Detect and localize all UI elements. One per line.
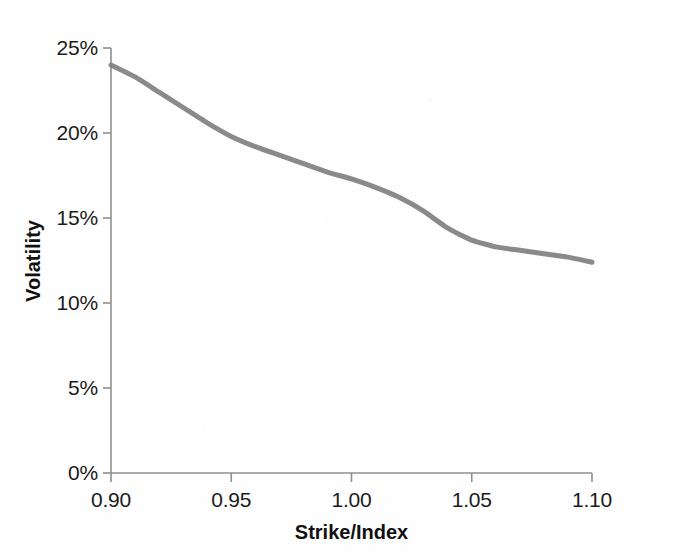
y-tick-label-4: 5%	[30, 376, 98, 400]
y-tick-label-5: 0%	[30, 461, 98, 485]
x-tick-label-0: 0.90	[91, 488, 131, 512]
chart-figure: 25% 20% 15% 10% 5% 0% 0.90 0.95 1.00 1.0…	[0, 0, 682, 555]
x-tick-label-2: 1.00	[331, 488, 371, 512]
data-series-layer	[111, 65, 592, 262]
axis-ticks	[103, 48, 592, 482]
y-axis-title: Volatility	[22, 220, 45, 302]
series-line-0	[111, 65, 592, 262]
x-tick-label-4: 1.10	[572, 488, 612, 512]
x-axis-title: Strike/Index	[295, 521, 408, 544]
axis-lines	[111, 48, 592, 473]
y-tick-label-1: 20%	[30, 121, 98, 145]
plot-area	[0, 0, 682, 555]
x-tick-label-1: 0.95	[211, 488, 251, 512]
y-tick-label-0: 25%	[30, 36, 98, 60]
x-tick-label-3: 1.05	[452, 488, 492, 512]
